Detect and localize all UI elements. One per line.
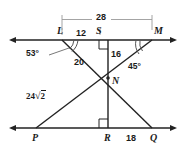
leader-angle-l xyxy=(49,48,69,55)
point-label-S: S xyxy=(96,26,102,36)
measure-label-LM: 28 xyxy=(96,13,106,22)
right-angle-square-s xyxy=(99,40,108,49)
measure-label-PN-radicand: 2 xyxy=(41,90,47,101)
geometry-figure: L S M N P R Q 28 12 16 20 18 24√2 53° 45… xyxy=(0,0,186,157)
point-label-N: N xyxy=(112,76,119,86)
measure-label-PN: 24√2 xyxy=(26,91,46,101)
point-label-L: L xyxy=(57,26,63,36)
radical-sign-icon: √ xyxy=(35,90,41,101)
measure-label-LN: 20 xyxy=(74,58,84,67)
point-label-Q: Q xyxy=(150,133,157,143)
geometry-canvas xyxy=(0,0,186,157)
measure-label-PN-coeff: 24 xyxy=(26,91,35,101)
vertex-dot-n xyxy=(106,76,110,80)
angle-label-M: 45° xyxy=(128,62,141,71)
measure-label-RQ: 18 xyxy=(126,134,136,143)
right-angle-square-r xyxy=(99,119,108,128)
point-label-P: P xyxy=(32,133,38,143)
point-label-R: R xyxy=(104,133,111,143)
point-label-M: M xyxy=(154,26,163,36)
measure-label-LS: 12 xyxy=(76,29,86,38)
angle-label-L: 53° xyxy=(26,49,39,58)
measure-label-SN: 16 xyxy=(111,50,121,59)
